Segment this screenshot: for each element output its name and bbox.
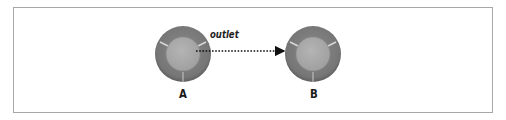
node-label-a: A xyxy=(175,87,192,101)
node-a-core xyxy=(166,37,200,71)
node-b-core xyxy=(296,37,330,71)
node-a xyxy=(155,26,211,82)
node-b xyxy=(285,26,341,82)
node-label-b: B xyxy=(306,87,323,101)
object-connection-diagram xyxy=(0,0,506,120)
edge-label-outlet: outlet xyxy=(210,29,239,40)
